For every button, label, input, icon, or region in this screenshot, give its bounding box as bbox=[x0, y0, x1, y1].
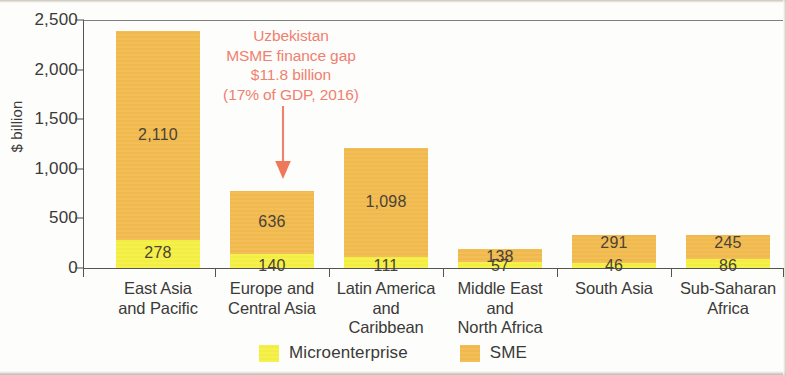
bar-middle-east-n-africa: 13857 bbox=[458, 249, 542, 268]
y-axis-tick-mark bbox=[75, 119, 84, 120]
y-axis-tick-label: 2,000 bbox=[16, 60, 78, 80]
legend-swatch-sme bbox=[460, 345, 480, 362]
x-axis-tick-mark bbox=[671, 268, 672, 277]
bar-value-microenterprise: 46 bbox=[572, 257, 656, 275]
plot-area: $ billion 2,5002,0001,5001,0005000 2,110… bbox=[0, 0, 786, 375]
x-axis-tick-mark bbox=[557, 268, 558, 277]
y-axis-tick-label: 1,000 bbox=[16, 159, 78, 179]
bar-sub-saharan-africa: 24586 bbox=[686, 235, 770, 268]
x-category-label-line: Latin America bbox=[320, 279, 452, 299]
bar-value-microenterprise: 278 bbox=[116, 244, 200, 262]
y-axis-tick-mark bbox=[75, 218, 84, 219]
bar-segment-sme: 245 bbox=[686, 235, 770, 259]
x-category-label-line: and bbox=[434, 299, 566, 319]
legend-item-sme[interactable]: SME bbox=[460, 343, 527, 363]
bar-value-sme: 245 bbox=[686, 234, 770, 252]
x-axis-tick-mark bbox=[83, 268, 84, 277]
annotation-arrow-icon bbox=[272, 106, 294, 181]
x-category-label-line: Sub-Saharan bbox=[662, 279, 786, 299]
annotation-line-3: $11.8 billion bbox=[196, 65, 386, 85]
bar-value-microenterprise: 57 bbox=[458, 257, 542, 275]
annotation-line-2: MSME finance gap bbox=[196, 46, 386, 66]
x-axis-line bbox=[83, 268, 783, 269]
x-axis-tick-mark bbox=[215, 268, 216, 277]
bar-segment-microenterprise: 140 bbox=[230, 254, 314, 268]
bar-segment-microenterprise: 57 bbox=[458, 262, 542, 268]
y-axis-tick-label: 0 bbox=[16, 258, 78, 278]
chart-figure: $ billion 2,5002,0001,5001,0005000 2,110… bbox=[0, 0, 786, 375]
legend-label-sme: SME bbox=[490, 343, 527, 363]
bar-latin-america: 1,098111 bbox=[344, 148, 428, 268]
bar-segment-microenterprise: 46 bbox=[572, 263, 656, 268]
x-category-label-line: Europe and bbox=[206, 279, 338, 299]
legend-swatch-microenterprise bbox=[259, 345, 279, 362]
bar-segment-microenterprise: 278 bbox=[116, 240, 200, 268]
bar-south-asia: 29146 bbox=[572, 235, 656, 268]
x-category-label-line: South Asia bbox=[548, 279, 680, 299]
bar-value-sme: 1,098 bbox=[344, 193, 428, 211]
x-category-label-south-asia: South Asia bbox=[548, 279, 680, 299]
bar-segment-sme: 1,098 bbox=[344, 148, 428, 257]
x-category-label-europe-central-asia: Europe andCentral Asia bbox=[206, 279, 338, 318]
y-axis-tick-label: 500 bbox=[16, 208, 78, 228]
x-category-label-line: and Pacific bbox=[92, 299, 224, 319]
y-axis-line bbox=[83, 20, 84, 269]
bar-value-sme: 291 bbox=[572, 234, 656, 252]
x-category-label-latin-america: Latin AmericaandCaribbean bbox=[320, 279, 452, 338]
x-category-label-line: Caribbean bbox=[320, 318, 452, 338]
y-axis-tick-mark bbox=[75, 69, 84, 70]
x-category-label-line: and bbox=[320, 299, 452, 319]
bar-value-microenterprise: 86 bbox=[686, 257, 770, 275]
bar-segment-sme: 2,110 bbox=[116, 31, 200, 240]
bar-segment-microenterprise: 86 bbox=[686, 259, 770, 268]
x-category-label-line: East Asia bbox=[92, 279, 224, 299]
annotation-line-4: (17% of GDP, 2016) bbox=[196, 85, 386, 105]
x-category-label-middle-east-n-africa: Middle EastandNorth Africa bbox=[434, 279, 566, 338]
uzbekistan-annotation: Uzbekistan MSME finance gap $11.8 billio… bbox=[196, 26, 386, 104]
x-category-label-sub-saharan-africa: Sub-SaharanAfrica bbox=[662, 279, 786, 318]
bar-segment-microenterprise: 111 bbox=[344, 257, 428, 268]
y-axis-tick-label: 1,500 bbox=[16, 109, 78, 129]
legend-item-microenterprise[interactable]: Microenterprise bbox=[259, 343, 408, 363]
annotation-line-1: Uzbekistan bbox=[196, 26, 386, 46]
x-category-label-east-asia-pacific: East Asiaand Pacific bbox=[92, 279, 224, 318]
bar-value-sme: 2,110 bbox=[116, 126, 200, 144]
x-category-label-line: Africa bbox=[662, 299, 786, 319]
plot-top-rule bbox=[83, 20, 783, 21]
x-category-label-line: Middle East bbox=[434, 279, 566, 299]
bar-value-sme: 636 bbox=[230, 213, 314, 231]
x-category-label-line: North Africa bbox=[434, 318, 566, 338]
x-axis-tick-mark bbox=[783, 268, 784, 277]
chart-legend: MicroenterpriseSME bbox=[0, 343, 786, 363]
bar-value-microenterprise: 140 bbox=[230, 257, 314, 275]
y-axis-tick-mark bbox=[75, 20, 84, 21]
bar-segment-sme: 636 bbox=[230, 191, 314, 254]
bar-value-microenterprise: 111 bbox=[344, 257, 428, 275]
bar-east-asia-pacific: 2,110278 bbox=[116, 31, 200, 268]
x-axis-tick-mark bbox=[443, 268, 444, 277]
x-axis-tick-mark bbox=[329, 268, 330, 277]
y-axis-tick-label: 2,500 bbox=[16, 10, 78, 30]
bar-europe-central-asia: 636140 bbox=[230, 191, 314, 268]
legend-label-microenterprise: Microenterprise bbox=[289, 343, 408, 363]
y-axis-tick-mark bbox=[75, 168, 84, 169]
x-category-label-line: Central Asia bbox=[206, 299, 338, 319]
